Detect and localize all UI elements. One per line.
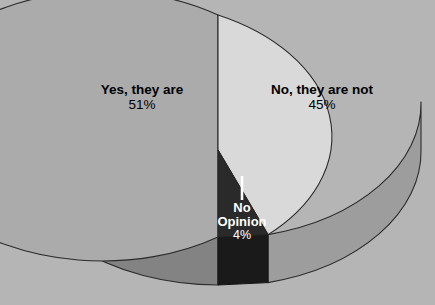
slice-top-yes [0, 0, 218, 261]
pie-chart-canvas [0, 0, 435, 305]
slice-side-wall-no-opinion [218, 235, 268, 285]
pie-chart-figure: Yes, they are 51% No, they are not 45% N… [0, 0, 435, 305]
